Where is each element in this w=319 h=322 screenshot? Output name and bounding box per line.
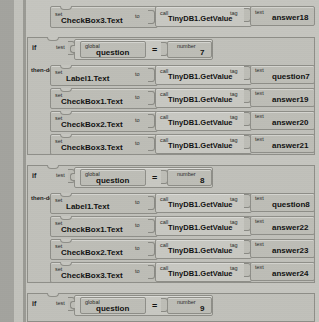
- if-keyword: if: [32, 171, 36, 180]
- value-socket[interactable]: [148, 196, 155, 210]
- to-keyword: to: [135, 140, 140, 147]
- global-variable-name: question: [96, 48, 129, 58]
- tag-keyword: tag: [230, 10, 238, 17]
- outer-block-left-edge: [23, 0, 26, 322]
- global-variable-name: question: [96, 304, 129, 314]
- to-keyword: to: [135, 94, 140, 101]
- call-method-label: TinyDB1.GetValue: [168, 14, 232, 24]
- set-target-label: CheckBox1.Text: [61, 225, 123, 235]
- global-variable-name: question: [96, 176, 129, 186]
- text-value-label: question8: [272, 200, 310, 210]
- tag-keyword: tag: [230, 265, 238, 272]
- to-keyword: to: [135, 71, 140, 78]
- value-socket[interactable]: [148, 219, 155, 233]
- set-keyword: set: [55, 69, 62, 76]
- text-keyword: text: [255, 195, 264, 202]
- text-value-label: answer20: [272, 118, 308, 128]
- call-method-label: TinyDB1.GetValue: [168, 72, 232, 82]
- value-socket[interactable]: [148, 91, 155, 105]
- number-value: 8: [200, 176, 204, 186]
- set-target-label: Label1.Text: [66, 74, 109, 84]
- set-target-label: CheckBox3.Text: [61, 271, 123, 281]
- canvas-left-margin: [14, 0, 23, 322]
- set-target-label: CheckBox3.Text: [61, 143, 123, 153]
- to-keyword: to: [135, 245, 140, 252]
- tag-keyword: tag: [230, 114, 238, 121]
- text-keyword: text: [255, 67, 264, 74]
- text-keyword: text: [255, 9, 264, 16]
- tag-keyword: tag: [230, 91, 238, 98]
- tag-keyword: tag: [230, 196, 238, 203]
- tag-keyword: tag: [230, 219, 238, 226]
- text-keyword: text: [255, 90, 264, 97]
- text-value-label: answer21: [272, 141, 308, 151]
- call-method-label: TinyDB1.GetValue: [168, 269, 232, 279]
- tag-keyword: tag: [230, 242, 238, 249]
- test-keyword: test: [56, 300, 65, 307]
- set-keyword: set: [55, 197, 62, 204]
- text-keyword: text: [255, 218, 264, 225]
- number-keyword: number: [177, 171, 196, 178]
- if-keyword: if: [32, 299, 36, 308]
- comparison-plug: [70, 301, 75, 309]
- text-keyword: text: [255, 136, 264, 143]
- to-keyword: to: [135, 117, 140, 124]
- value-socket[interactable]: [148, 68, 155, 82]
- call-method-label: TinyDB1.GetValue: [168, 200, 232, 210]
- equals-operator: =: [152, 174, 157, 183]
- text-keyword: text: [255, 113, 264, 120]
- number-value: 9: [200, 304, 204, 314]
- to-keyword: to: [135, 222, 140, 229]
- canvas-left-gutter: [0, 0, 14, 322]
- set-target-label: CheckBox3.Text: [61, 16, 123, 26]
- comparison-plug: [70, 173, 75, 181]
- text-keyword: text: [255, 241, 264, 248]
- test-keyword: test: [56, 172, 65, 179]
- value-socket[interactable]: [148, 242, 155, 256]
- tag-keyword: tag: [230, 68, 238, 75]
- call-method-label: TinyDB1.GetValue: [168, 141, 232, 151]
- to-keyword: to: [135, 199, 140, 206]
- set-target-label: CheckBox2.Text: [61, 248, 123, 258]
- set-target-label: CheckBox1.Text: [61, 97, 123, 107]
- number-keyword: number: [177, 43, 196, 50]
- text-value-label: answer24: [272, 269, 308, 279]
- text-value-label: answer18: [272, 13, 308, 23]
- number-value: 7: [200, 48, 204, 58]
- set-target-label: Label1.Text: [66, 202, 109, 212]
- blocks-editor-canvas[interactable]: set CheckBox3.Text to call TinyDB1.GetVa…: [0, 0, 319, 322]
- text-value-label: answer23: [272, 246, 308, 256]
- call-method-label: TinyDB1.GetValue: [168, 246, 232, 256]
- test-keyword: test: [56, 44, 65, 51]
- value-socket[interactable]: [148, 137, 155, 151]
- call-method-label: TinyDB1.GetValue: [168, 118, 232, 128]
- value-socket[interactable]: [148, 265, 155, 279]
- call-method-label: TinyDB1.GetValue: [168, 95, 232, 105]
- to-keyword: to: [135, 268, 140, 275]
- text-value-label: answer22: [272, 223, 308, 233]
- set-target-label: CheckBox2.Text: [61, 120, 123, 130]
- equals-operator: =: [152, 46, 157, 55]
- if-keyword: if: [32, 43, 36, 52]
- tag-keyword: tag: [230, 137, 238, 144]
- comparison-plug: [70, 45, 75, 53]
- text-value-label: answer19: [272, 95, 308, 105]
- text-keyword: text: [255, 264, 264, 271]
- to-keyword: to: [135, 13, 140, 20]
- call-method-label: TinyDB1.GetValue: [168, 223, 232, 233]
- value-socket[interactable]: [148, 10, 155, 24]
- number-keyword: number: [177, 299, 196, 306]
- value-socket[interactable]: [148, 114, 155, 128]
- text-value-label: question7: [272, 72, 310, 82]
- equals-operator: =: [152, 302, 157, 311]
